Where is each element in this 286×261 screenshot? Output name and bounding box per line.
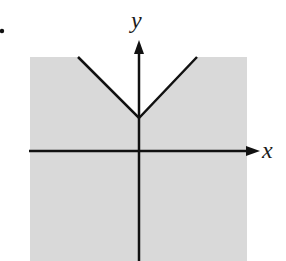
y-axis-arrow-icon [134,40,144,54]
x-axis-label: x [261,137,273,163]
inequality-graph: x y [0,0,286,261]
y-axis-label: y [129,7,142,33]
x-axis-arrow-icon [246,146,260,156]
item-marker-dot [0,29,4,33]
